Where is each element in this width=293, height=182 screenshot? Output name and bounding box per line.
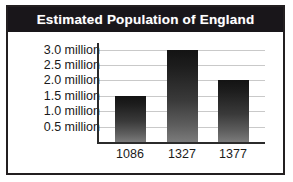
- xtick-label-1086: 1086: [104, 147, 156, 161]
- ytick-label-1.5: 1.5 million: [18, 89, 100, 103]
- xtick-label-1377: 1377: [207, 147, 259, 161]
- ytick-label-0.5: 0.5 million: [18, 120, 100, 134]
- xtick-label-1327: 1327: [156, 147, 208, 161]
- bar-1377[interactable]: [218, 80, 249, 142]
- ytick-label-3.0: 3.0 million: [18, 43, 100, 57]
- bar-1327[interactable]: [167, 50, 198, 142]
- chart-figure: Estimated Population of England 3.0 mill…: [6, 5, 285, 175]
- chart-title: Estimated Population of England: [37, 12, 255, 27]
- chart-title-band: Estimated Population of England: [8, 7, 283, 32]
- ytick-label-2.0: 2.0 million: [18, 73, 100, 87]
- x-axis-line: [97, 142, 265, 144]
- bar-series: 1086 1327 1377: [97, 32, 265, 142]
- ytick-label-1.0: 1.0 million: [18, 104, 100, 118]
- bar-1086[interactable]: [115, 96, 146, 142]
- ytick-label-2.5: 2.5 million: [18, 58, 100, 72]
- plot-area: 3.0 million 2.5 million 2.0 million 1.5 …: [8, 32, 283, 173]
